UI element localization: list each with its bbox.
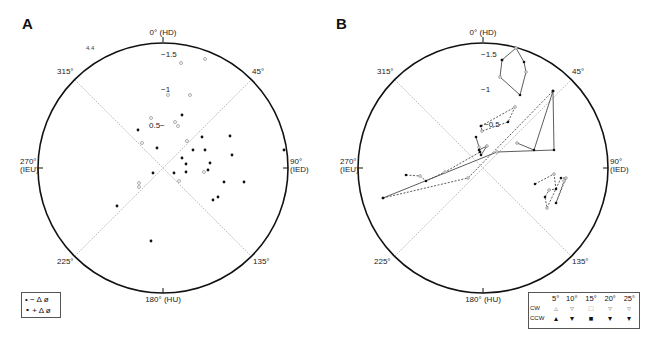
polar-plot-a: 0° (HD) 180° (HU) 90° (IED) 270° (IEU) 4…	[20, 28, 309, 304]
legend-a-row-negative: • − Δ ø	[25, 294, 57, 305]
trajectory-point	[555, 202, 558, 205]
trajectory-point	[560, 177, 563, 180]
label-a-180: 180° (HU)	[145, 295, 181, 304]
filled-triangle-down-icon: ▾	[601, 313, 620, 323]
data-point-negative	[204, 149, 207, 152]
trajectory-point	[405, 174, 408, 177]
trajectory-point	[480, 154, 483, 157]
trajectory-point	[525, 71, 528, 74]
data-point-negative	[185, 163, 188, 166]
legend-b-row-cw: CW ▵ ▿ □ ▿ ▿	[529, 303, 639, 313]
data-point-negative	[231, 154, 234, 157]
data-point-negative	[181, 157, 184, 160]
trajectory-point	[546, 207, 549, 210]
data-point-negative	[185, 171, 188, 174]
trajectory-point	[565, 177, 568, 180]
data-point-negative	[192, 149, 195, 152]
legend-b-row-ccw: CCW ▴ ▾ ■ ▾ ▾	[529, 313, 639, 323]
plot-b-trajectories	[382, 47, 568, 210]
label-a-225: 225°	[57, 257, 74, 266]
open-triangle-down-icon: ▿	[601, 303, 620, 313]
open-triangle-down-icon: ▿	[562, 303, 581, 313]
trajectory-point	[534, 183, 537, 186]
trajectory-point	[501, 59, 504, 62]
trajectory-diagonal-solid	[383, 91, 554, 198]
trajectory-point	[553, 173, 556, 176]
data-point-negative	[223, 181, 226, 184]
data-point-positive	[174, 121, 177, 124]
data-point-negative	[150, 240, 153, 243]
trajectory-point	[553, 149, 556, 152]
data-point-negative	[209, 162, 212, 165]
data-point-positive	[141, 142, 144, 145]
trajectory-point	[496, 151, 499, 154]
trajectory-diagonal-dashed	[383, 91, 553, 198]
label-b-180: 180° (HU)	[465, 295, 501, 304]
filled-triangle-down-icon: ▾	[620, 313, 639, 323]
data-point-negative	[229, 135, 232, 138]
data-point-positive	[177, 125, 180, 128]
open-dot-icon: ∘	[25, 306, 30, 315]
trajectory-point	[552, 90, 555, 93]
data-point-positive	[204, 58, 207, 61]
trajectory-point	[444, 171, 447, 174]
data-point-positive	[180, 62, 183, 65]
trajectory-point	[486, 145, 489, 148]
trajectory-point	[419, 175, 422, 178]
data-point-negative	[243, 181, 246, 184]
data-point-negative	[181, 114, 184, 117]
label-a-0: 0° (HD)	[150, 28, 177, 37]
trajectory-point	[563, 180, 566, 183]
trajectory-loop-top	[500, 48, 526, 95]
label-b-r05: −0.5	[484, 120, 500, 129]
trajectory-point	[514, 106, 517, 109]
open-triangle-icon: ▵	[549, 303, 562, 313]
data-point-negative	[137, 129, 140, 132]
label-a-45: 45°	[252, 67, 264, 76]
label-b-0: 0° (HD)	[470, 28, 497, 37]
data-point-negative	[156, 147, 159, 150]
data-point-positive	[150, 117, 153, 120]
data-point-positive	[178, 180, 181, 183]
filled-square-icon: ■	[581, 313, 600, 323]
label-a-315: 315°	[57, 67, 74, 76]
data-point-positive	[138, 186, 141, 189]
label-a-r05: 0.5−	[149, 121, 165, 130]
plot-a-points-negative	[116, 114, 286, 243]
trajectory-point	[475, 136, 478, 139]
trajectory-point	[544, 196, 547, 199]
open-square-icon: □	[581, 303, 600, 313]
data-point-positive	[203, 171, 206, 174]
label-a-90-name: (IED)	[290, 165, 309, 174]
trajectory-point	[382, 197, 385, 200]
plot-a-points-positive	[138, 58, 207, 189]
label-b-225: 225°	[374, 257, 391, 266]
trajectory-point	[516, 142, 519, 145]
label-b-r1: −1	[481, 85, 491, 94]
label-a-r44: 4.4	[86, 45, 95, 51]
open-triangle-down-icon: ▿	[620, 303, 639, 313]
trajectory-point	[519, 94, 522, 97]
filled-dot-icon: •	[25, 295, 28, 304]
data-point-negative	[173, 172, 176, 175]
trajectory-point	[479, 151, 482, 154]
data-point-negative	[152, 172, 155, 175]
trajectory-point	[480, 125, 483, 128]
data-point-negative	[283, 149, 286, 152]
label-a-r1: −1	[161, 85, 171, 94]
filled-triangle-icon: ▴	[549, 313, 562, 323]
label-a-135: 135°	[253, 257, 270, 266]
legend-a-row-positive: ∘ + Δ ø	[25, 305, 57, 316]
label-a-r15: −1.5	[161, 50, 177, 59]
label-b-r15: −1.5	[481, 50, 497, 59]
data-point-positive	[186, 140, 189, 143]
legend-b-header: 5° 10° 15° 20° 25°	[529, 293, 639, 303]
trajectory-point	[523, 61, 526, 64]
legend-a: • − Δ ø ∘ + Δ ø	[21, 292, 61, 318]
data-point-negative	[207, 169, 210, 172]
trajectory-point	[425, 180, 428, 183]
data-point-negative	[217, 196, 220, 199]
legend-b: 5° 10° 15° 20° 25° CW ▵ ▿ □ ▿ ▿ CCW ▴ ▾ …	[528, 292, 640, 329]
trajectory-point	[555, 188, 558, 191]
trajectory-point	[515, 47, 518, 50]
